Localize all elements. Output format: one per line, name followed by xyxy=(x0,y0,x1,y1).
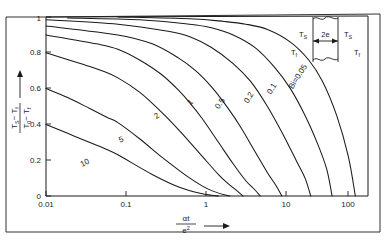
x-axis-tick-labels: 0.01 0.1 1 10 100 xyxy=(38,200,355,209)
x-tick-label-0: 0.01 xyxy=(38,200,54,209)
y-tick-label-3: 0.6 xyxy=(30,84,42,93)
slab-fluid-temp-left-label: Tf xyxy=(291,48,298,58)
slab-thickness-label: 2e xyxy=(321,30,329,39)
x-axis-title-numerator: αt xyxy=(183,214,191,223)
curve-series-10 xyxy=(46,124,218,196)
y-tick-label-1: 0.2 xyxy=(30,156,42,165)
slab-fluid-temp-right-label: Tf xyxy=(354,48,361,58)
slab-thickness-dimension xyxy=(313,39,338,44)
curve-series-5 xyxy=(46,89,230,196)
y-axis-title-numerator: TS− Tf xyxy=(10,107,20,129)
curve-label-10: 10 xyxy=(79,156,92,168)
x-tick-label-2: 1 xyxy=(204,200,209,209)
slab-bottom-break xyxy=(313,58,338,61)
y-axis-ticks xyxy=(46,17,51,196)
curve-label-1: 1 xyxy=(185,97,195,107)
curve-label-5: 5 xyxy=(117,134,125,144)
chart-curves xyxy=(46,17,355,196)
curve-label-2: 2 xyxy=(152,111,161,121)
slab-surface-temp-right-label: TS xyxy=(344,30,353,40)
x-axis-title-denominator: e2 xyxy=(182,225,189,235)
curve-label-0.2: 0.2 xyxy=(242,90,256,105)
x-axis-ticks xyxy=(46,191,348,196)
y-axis-arrow-icon xyxy=(17,70,23,98)
x-axis-arrow-icon xyxy=(204,223,230,229)
figure-container: 0 0.2 0.4 0.6 0.8 1 0.01 0.1 1 10 100 xyxy=(0,0,386,240)
y-tick-label-5: 1 xyxy=(37,14,42,23)
x-tick-label-3: 10 xyxy=(282,200,291,209)
slab-top-break xyxy=(313,17,338,20)
curve-label-0.1: 0.1 xyxy=(265,81,279,96)
slab-surface-temp-left-label: TS xyxy=(299,30,308,40)
y-axis-title-denominator: T0− Tf xyxy=(22,107,32,129)
x-tick-label-1: 0.1 xyxy=(120,200,132,209)
curve-label-bi-0.05: Bi=0.05 xyxy=(287,62,309,90)
y-tick-label-4: 0.8 xyxy=(30,48,42,57)
curve-label-0.5: 0.5 xyxy=(213,96,227,111)
figure-border xyxy=(6,14,380,232)
inset-slab-diagram: 2e TS TS Tf Tf xyxy=(291,17,361,62)
x-tick-label-4: 100 xyxy=(341,200,355,209)
curve-series-0.5 xyxy=(46,26,282,196)
curve-series-0.1 xyxy=(68,18,332,196)
y-axis-title: TS− Tf T0− Tf xyxy=(10,103,32,133)
curve-series-2 xyxy=(46,53,243,196)
